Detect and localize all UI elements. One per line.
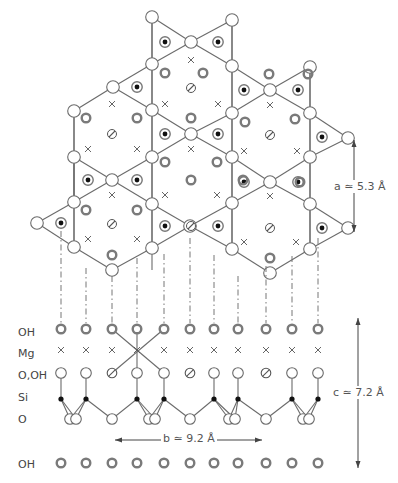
oxygen-atom-icon bbox=[146, 198, 159, 211]
mg-cross-icon bbox=[267, 193, 273, 199]
hydroxyl-icon bbox=[108, 325, 117, 334]
dimension-a-label: a ≃ 5.3 Å bbox=[334, 180, 385, 193]
row-label-oh_top: OH bbox=[18, 326, 35, 339]
oxygen-atom-icon bbox=[342, 132, 355, 145]
oxygen-atom-icon bbox=[68, 241, 81, 254]
oxygen-atom-icon bbox=[159, 368, 170, 379]
hydroxyl-icon bbox=[133, 114, 142, 123]
mg-cross-icon bbox=[315, 347, 321, 353]
hydroxyl-icon bbox=[314, 459, 323, 468]
oxygen-atom-icon bbox=[68, 105, 81, 118]
mg-cross-icon bbox=[83, 347, 89, 353]
mg-cross-icon bbox=[211, 347, 217, 353]
si-dot-icon bbox=[163, 132, 168, 137]
mg-cross-icon bbox=[188, 57, 194, 63]
mg-cross-icon bbox=[215, 101, 221, 107]
oxygen-atom-icon bbox=[106, 264, 119, 277]
oxygen-atom-icon bbox=[226, 14, 239, 27]
hydroxyl-icon bbox=[133, 459, 142, 468]
oxygen-atom-icon bbox=[132, 368, 143, 379]
mg-cross-icon bbox=[109, 347, 115, 353]
oxygen-atom-icon bbox=[233, 368, 244, 379]
si-dot-icon bbox=[211, 396, 216, 401]
oxygen-atom-icon bbox=[226, 60, 239, 73]
si-dot-icon bbox=[216, 40, 221, 45]
hydroxyl-icon bbox=[234, 325, 243, 334]
hydroxyl-icon bbox=[108, 251, 117, 260]
oxygen-atom-icon bbox=[106, 174, 119, 187]
oxygen-atom-icon bbox=[226, 151, 239, 164]
side-view bbox=[56, 325, 324, 468]
row-label-mg: Mg bbox=[18, 347, 34, 360]
hydroxyl-icon bbox=[108, 459, 117, 468]
si-dot-icon bbox=[163, 224, 168, 229]
si-dot-icon bbox=[83, 396, 88, 401]
hydroxyl-icon bbox=[133, 325, 142, 334]
mg-cross-icon bbox=[134, 146, 140, 152]
oxygen-atom-icon bbox=[304, 151, 317, 164]
oxygen-atom-icon bbox=[185, 414, 196, 425]
hydroxyl-icon bbox=[82, 325, 91, 334]
arrowhead-icon bbox=[255, 438, 262, 443]
mg-cross-icon bbox=[161, 347, 167, 353]
oxygen-atom-icon bbox=[146, 58, 159, 71]
oxygen-atom-icon bbox=[226, 243, 239, 256]
hydroxyl-icon bbox=[82, 206, 91, 215]
mg-cross-icon bbox=[289, 347, 295, 353]
plan-view bbox=[31, 11, 355, 280]
hydroxyl-icon bbox=[288, 325, 297, 334]
oxygen-atom-icon bbox=[342, 222, 355, 235]
hydroxyl-icon bbox=[186, 459, 195, 468]
oxygen-atom-icon bbox=[304, 198, 317, 211]
mg-cross-icon bbox=[85, 236, 91, 242]
arrowhead-icon bbox=[115, 438, 122, 443]
oxygen-atom-icon bbox=[71, 414, 82, 425]
mg-cross-icon bbox=[235, 347, 241, 353]
hydroxyl-icon bbox=[82, 459, 91, 468]
si-dot-icon bbox=[58, 396, 63, 401]
arrowhead-icon bbox=[356, 461, 361, 468]
si-dot-icon bbox=[296, 88, 301, 93]
oxygen-atom-icon bbox=[264, 84, 277, 97]
mg-cross-icon bbox=[188, 146, 194, 152]
si-dot-icon bbox=[59, 221, 64, 226]
hydroxyl-icon bbox=[241, 118, 250, 127]
dimension-b-label: b ≃ 9.2 Å bbox=[161, 432, 217, 445]
mg-cross-icon bbox=[214, 192, 220, 198]
mg-cross-icon bbox=[241, 239, 247, 245]
row-label-o: O bbox=[18, 413, 27, 426]
si-dot-icon bbox=[315, 396, 320, 401]
arrowhead-icon bbox=[356, 318, 361, 325]
mg-cross-icon bbox=[85, 146, 91, 152]
row-label-o_oh: O,OH bbox=[18, 369, 47, 382]
si-dot-icon bbox=[135, 85, 140, 90]
mg-cross-icon bbox=[293, 239, 299, 245]
oxygen-atom-icon bbox=[146, 151, 159, 164]
oxygen-atom-icon bbox=[313, 368, 324, 379]
hydroxyl-icon bbox=[187, 114, 196, 123]
hydroxyl-icon bbox=[291, 115, 300, 124]
dimension-c-label: c ≃ 7.2 Å bbox=[333, 386, 384, 399]
si-dot-icon bbox=[242, 88, 247, 93]
oxygen-atom-icon bbox=[185, 36, 198, 49]
oxygen-atom-icon bbox=[230, 414, 241, 425]
oxygen-atom-icon bbox=[68, 196, 81, 209]
oxygen-atom-icon bbox=[68, 151, 81, 164]
mg-cross-icon bbox=[241, 148, 247, 154]
hydroxyl-icon bbox=[210, 459, 219, 468]
mg-cross-icon bbox=[187, 347, 193, 353]
mg-cross-icon bbox=[267, 102, 273, 108]
mg-cross-icon bbox=[162, 101, 168, 107]
si-dot-icon bbox=[163, 40, 168, 45]
si-dot-icon bbox=[135, 178, 140, 183]
oxygen-atom-icon bbox=[209, 368, 220, 379]
row-label-oh_bottom: OH bbox=[18, 458, 35, 471]
mg-cross-icon bbox=[134, 236, 140, 242]
oxygen-atom-icon bbox=[146, 11, 159, 24]
si-dot-icon bbox=[320, 226, 325, 231]
hydroxyl-icon bbox=[82, 114, 91, 123]
oxygen-atom-icon bbox=[107, 414, 118, 425]
hydroxyl-icon bbox=[266, 254, 275, 263]
oxygen-atom-icon bbox=[31, 217, 44, 230]
hydroxyl-icon bbox=[288, 459, 297, 468]
